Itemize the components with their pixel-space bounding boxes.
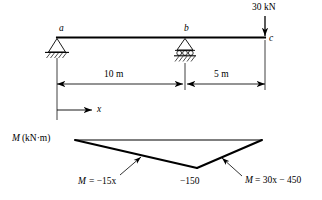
equation-left-symbol: M xyxy=(78,176,86,186)
moment-axis-units: (kN·m) xyxy=(20,133,51,143)
leader-eq-left xyxy=(120,157,141,175)
moment-axis-label: M(kN·m) xyxy=(12,134,50,144)
point-label-b: b xyxy=(184,24,189,34)
equation-left-body: = −15x xyxy=(86,176,116,186)
figure-canvas xyxy=(0,0,322,200)
beam-moment-diagram-figure: 30 kN a b c 10 m 5 m x M(kN·m) −150 M= −… xyxy=(0,0,322,200)
moment-diagram xyxy=(75,140,262,168)
leader-eq-right xyxy=(222,158,242,176)
equation-label-left: M= −15x xyxy=(78,177,116,187)
equation-label-right: M= 30x − 450 xyxy=(245,176,301,186)
load-label: 30 kN xyxy=(252,3,276,13)
point-label-a: a xyxy=(59,24,64,34)
extension-lines xyxy=(57,40,265,120)
x-axis-label: x xyxy=(97,105,101,115)
pin-support-a xyxy=(45,39,69,59)
roller-support-b xyxy=(174,39,196,62)
moment-segment-bc xyxy=(197,140,262,168)
leader-lines xyxy=(120,157,242,176)
dimension-label-5m: 5 m xyxy=(214,70,229,80)
moment-segment-ab xyxy=(75,140,197,168)
point-label-c: c xyxy=(269,34,273,44)
moment-value-label: −150 xyxy=(180,177,200,187)
dimension-label-10m: 10 m xyxy=(104,70,123,80)
moment-axis-symbol: M xyxy=(12,133,20,143)
equation-right-symbol: M xyxy=(245,175,253,185)
equation-right-body: = 30x − 450 xyxy=(253,175,301,185)
